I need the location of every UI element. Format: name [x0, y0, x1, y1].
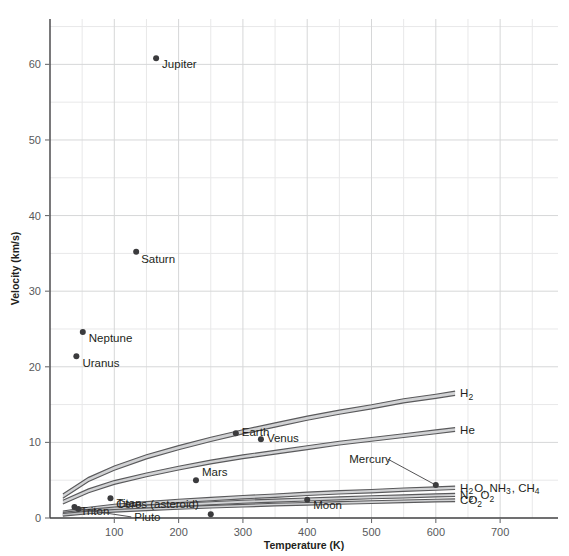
x-tick-label: 100	[105, 526, 123, 538]
y-tick-label: 0	[35, 512, 41, 524]
x-tick-label: 700	[491, 526, 509, 538]
datapoint-neptune	[80, 329, 86, 335]
leader-line-mercury	[388, 459, 436, 485]
point-label-ceres-asteroid-: Ceres (asteroid)	[116, 498, 199, 510]
chart-canvas: 0102030405060100200300400500600700 Jupit…	[0, 0, 569, 556]
x-tick-label: 200	[169, 526, 187, 538]
point-label-neptune: Neptune	[89, 332, 132, 344]
point-label-venus: Venus	[267, 432, 299, 444]
point-label-jupiter: Jupiter	[162, 58, 197, 70]
point-label-mars: Mars	[202, 466, 228, 478]
escape-velocity-chart: 0102030405060100200300400500600700 Jupit…	[0, 0, 569, 556]
y-tick-label: 20	[29, 361, 41, 373]
point-label-saturn: Saturn	[141, 253, 175, 265]
x-tick-label: 400	[298, 526, 316, 538]
point-label-pluto: Pluto	[134, 511, 160, 523]
axis-tick-labels: 0102030405060100200300400500600700	[29, 58, 510, 538]
y-axis-title: Velocity (km/s)	[9, 232, 21, 306]
minor-gridlines	[50, 19, 558, 518]
major-gridlines	[50, 19, 558, 518]
datapoint-titan	[107, 495, 113, 501]
x-tick-label: 500	[362, 526, 380, 538]
datapoint-uranus	[73, 353, 79, 359]
point-label-earth: Earth	[242, 426, 269, 438]
datapoint-mercury	[433, 482, 439, 488]
datapoint-moon	[304, 497, 310, 503]
x-tick-label: 600	[427, 526, 445, 538]
datapoint-earth	[233, 430, 239, 436]
y-tick-label: 10	[29, 436, 41, 448]
x-tick-label: 300	[234, 526, 252, 538]
point-label-uranus: Uranus	[82, 357, 119, 369]
point-label-mercury: Mercury	[349, 453, 391, 465]
datapoint-mars	[193, 477, 199, 483]
y-tick-label: 40	[29, 210, 41, 222]
y-tick-label: 30	[29, 285, 41, 297]
axis-lines	[50, 19, 558, 518]
y-tick-label: 60	[29, 58, 41, 70]
datapoint-saturn	[133, 249, 139, 255]
point-label-moon: Moon	[313, 499, 342, 511]
datapoint-jupiter	[153, 55, 159, 61]
y-tick-label: 50	[29, 134, 41, 146]
curve-label-h2: H2	[460, 387, 474, 402]
curve-label-he: He	[460, 424, 475, 436]
body-data-points	[71, 55, 438, 517]
x-axis-title: Temperature (K)	[264, 539, 344, 551]
datapoint-ceres-asteroid-	[208, 511, 214, 517]
